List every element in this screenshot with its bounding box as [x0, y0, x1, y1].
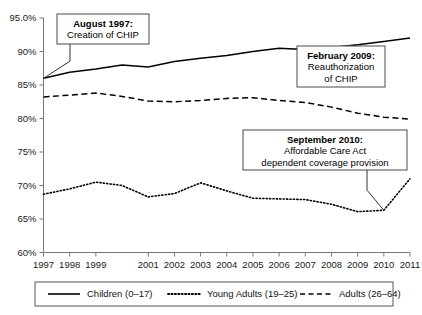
- x-tick-label: 2011: [400, 259, 420, 270]
- x-tick-label: 2003: [190, 259, 211, 270]
- x-tick-label: 1997: [33, 259, 54, 270]
- y-tick-label: 60%: [17, 247, 37, 258]
- y-tick-label: 70%: [17, 180, 37, 191]
- annotation-title: February 2009:: [307, 50, 375, 61]
- series-line-young-adults: [44, 179, 411, 212]
- y-axis-ticks: 95.0%90%85%80%75%70%65%60%: [10, 12, 44, 258]
- x-tick-label: 1998: [59, 259, 80, 270]
- y-tick-label: 85%: [17, 79, 37, 90]
- x-tick-label: 2009: [347, 259, 368, 270]
- x-tick-label: 2004: [216, 259, 237, 270]
- y-tick-label: 90%: [17, 46, 37, 57]
- annotation-title: September 2010:: [287, 134, 363, 145]
- legend-label: Young Adults (19–25): [207, 288, 298, 299]
- x-axis-ticks: 1997199819992001200220032004200520062007…: [33, 253, 420, 270]
- x-tick-label: 1999: [85, 259, 106, 270]
- annotation-text: dependent coverage provision: [261, 157, 388, 168]
- x-tick-label: 2005: [242, 259, 263, 270]
- y-tick-label: 75%: [17, 146, 37, 157]
- annotation-text: of CHIP: [324, 73, 357, 84]
- x-tick-label: 2007: [295, 259, 316, 270]
- annotation-text: Reauthorization: [308, 61, 375, 72]
- x-tick-label: 2010: [373, 259, 394, 270]
- annotation-title: August 1997:: [73, 18, 133, 29]
- annotation-leader-line: [367, 170, 384, 210]
- y-tick-label: 65%: [17, 213, 37, 224]
- annotation-text: Affordable Care Act: [284, 145, 367, 156]
- x-tick-label: 2006: [269, 259, 290, 270]
- x-tick-label: 2008: [321, 259, 342, 270]
- annotation-callouts: August 1997:Creation of CHIPFebruary 200…: [44, 14, 408, 210]
- chart-page: 95.0%90%85%80%75%70%65%60% 1997199819992…: [0, 0, 422, 315]
- annotation-february-2009: February 2009:Reauthorizationof CHIP: [297, 45, 385, 87]
- x-tick-label: 2002: [164, 259, 185, 270]
- x-tick-label: 2001: [138, 259, 159, 270]
- legend-label: Adults (26–64): [339, 288, 401, 299]
- y-tick-label: 80%: [17, 113, 37, 124]
- series-line-adults: [44, 93, 411, 119]
- chart-legend: Children (0–17)Young Adults (19–25)Adult…: [35, 282, 401, 306]
- insurance-coverage-line-chart: 95.0%90%85%80%75%70%65%60% 1997199819992…: [0, 0, 422, 315]
- legend-label: Children (0–17): [87, 288, 152, 299]
- y-tick-label: 95.0%: [10, 12, 37, 23]
- annotation-text: Creation of CHIP: [67, 29, 139, 40]
